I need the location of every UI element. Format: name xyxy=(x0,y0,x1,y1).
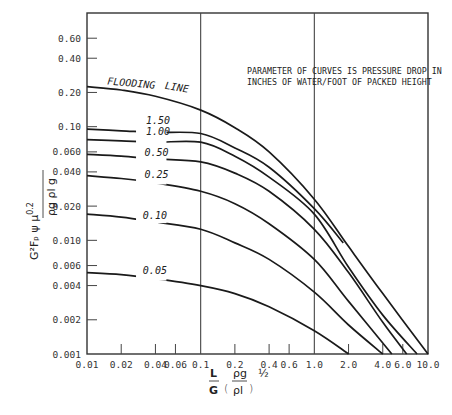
x-tick-label: 0.02 xyxy=(110,359,133,370)
x-tick-label: 1.0 xyxy=(306,359,323,370)
x-tick-label: 2.0 xyxy=(340,359,357,370)
y-tick-label: 0.006 xyxy=(52,260,81,271)
curve-label-1-00: 1.00 xyxy=(146,126,170,137)
pressure-drop-chart: 0.600.400.200.100.0600.0400.0200.0100.00… xyxy=(0,0,452,415)
x-tick-label: 6.0 xyxy=(394,359,411,370)
curve-0-10 xyxy=(87,214,383,354)
x-label-G: G xyxy=(209,384,218,397)
x-label-open-paren: ( xyxy=(224,382,228,395)
x-label-close-paren: ) xyxy=(249,382,253,395)
curve-label-line: LINE xyxy=(164,80,190,95)
y-tick-label: 0.010 xyxy=(52,235,81,246)
curve-labels: FLOODINGLINE1.501.000.500.250.100.05 xyxy=(107,76,190,276)
curve-0-05 xyxy=(87,273,349,354)
x-tick-label: 4.0 xyxy=(374,359,391,370)
x-tick-label: 0.6 xyxy=(281,359,298,370)
y-tick-label: 0.002 xyxy=(52,314,81,325)
x-label-L: L xyxy=(210,367,217,380)
y-tick-label: 0.20 xyxy=(58,87,81,98)
x-tick-label: 10.0 xyxy=(417,359,440,370)
curve-label-0-25: 0.25 xyxy=(144,169,168,180)
x-tick-label: 0.01 xyxy=(76,359,99,370)
y-tick-label: 0.40 xyxy=(58,53,81,64)
curve-label-0-05: 0.05 xyxy=(143,265,167,276)
pressure-drop-curves xyxy=(87,87,428,354)
x-axis-label: L G ( ρg ρl ) ½ xyxy=(209,367,269,397)
curve-1-00 xyxy=(87,140,417,354)
y-axis-label: G²Fₚ ψ μ0.2 ρg ρl g xyxy=(26,170,58,260)
y-axis-ticks: 0.600.400.200.100.0600.0400.0200.0100.00… xyxy=(52,33,97,360)
x-label-rho-l: ρl xyxy=(233,384,243,397)
y-tick-label: 0.060 xyxy=(52,146,81,157)
curve-0-50 xyxy=(87,154,407,354)
y-tick-label: 0.040 xyxy=(52,166,81,177)
y-label-numerator: G²Fₚ ψ μ0.2 xyxy=(26,202,41,260)
curve-label-0-50: 0.50 xyxy=(144,147,168,158)
x-label-rho-g: ρg xyxy=(233,367,247,380)
curve-label-1-50: 1.50 xyxy=(146,115,170,126)
x-tick-label: 0.06 xyxy=(164,359,187,370)
y-tick-label: 0.10 xyxy=(58,121,81,132)
note-line-1: PARAMETER OF CURVES IS PRESSURE DROP IN xyxy=(247,66,442,76)
y-tick-label: 0.001 xyxy=(52,349,81,360)
y-tick-label: 0.004 xyxy=(52,280,81,291)
parameter-note: PARAMETER OF CURVES IS PRESSURE DROP IN … xyxy=(247,66,442,87)
curve-label-0-10: 0.10 xyxy=(143,210,167,221)
x-label-power: ½ xyxy=(258,367,269,380)
note-line-2: INCHES OF WATER/FOOT OF PACKED HEIGHT xyxy=(247,77,432,87)
y-label-denominator: ρg ρl g xyxy=(45,178,58,216)
x-tick-label: 0.1 xyxy=(192,359,209,370)
y-tick-label: 0.60 xyxy=(58,33,81,44)
